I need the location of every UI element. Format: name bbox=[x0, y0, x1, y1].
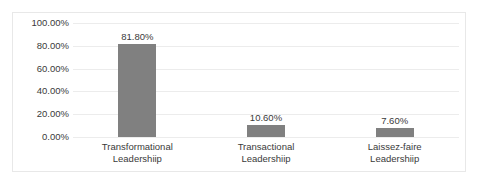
y-axis-tick-label: 40.00% bbox=[13, 86, 69, 96]
bar-group: 7.60% bbox=[330, 23, 459, 137]
x-axis-tick-label-line: Leadershiip bbox=[330, 153, 459, 165]
gridline bbox=[73, 137, 459, 138]
bar[interactable] bbox=[376, 128, 414, 137]
y-axis-tick-label: 20.00% bbox=[13, 109, 69, 119]
x-axis-tick-label-line: Leadershiip bbox=[202, 153, 331, 165]
y-axis-tick-label: 0.00% bbox=[13, 132, 69, 142]
x-axis-tick-label-line: Laissez-faire bbox=[330, 141, 459, 153]
bar-group: 81.80% bbox=[73, 23, 202, 137]
y-axis-tick-label: 60.00% bbox=[13, 64, 69, 74]
x-axis-tick-label: TransactionalLeadershiip bbox=[202, 141, 331, 165]
bar-value-label: 10.60% bbox=[250, 112, 282, 123]
bar-group: 10.60% bbox=[202, 23, 331, 137]
plot-area: 81.80%10.60%7.60% bbox=[73, 23, 459, 137]
x-axis-tick-label: TransformationalLeadershiip bbox=[73, 141, 202, 165]
bar[interactable] bbox=[247, 125, 285, 137]
bar[interactable] bbox=[118, 44, 156, 137]
y-axis-tick-label: 80.00% bbox=[13, 41, 69, 51]
bar-series: 81.80%10.60%7.60% bbox=[73, 23, 459, 137]
x-axis-tick-label: Laissez-faireLeadershiip bbox=[330, 141, 459, 165]
y-axis: 100.00%80.00%60.00%40.00%20.00%0.00% bbox=[13, 23, 69, 137]
y-axis-tick-label: 100.00% bbox=[13, 18, 69, 28]
bar-value-label: 81.80% bbox=[121, 31, 153, 42]
x-axis-tick-label-line: Transformational bbox=[73, 141, 202, 153]
bar-chart-figure: 100.00%80.00%60.00%40.00%20.00%0.00% 81.… bbox=[12, 12, 466, 172]
x-axis-tick-label-line: Transactional bbox=[202, 141, 331, 153]
x-axis: TransformationalLeadershiipTransactional… bbox=[73, 139, 459, 171]
x-axis-tick-label-line: Leadershiip bbox=[73, 153, 202, 165]
bar-value-label: 7.60% bbox=[381, 115, 408, 126]
